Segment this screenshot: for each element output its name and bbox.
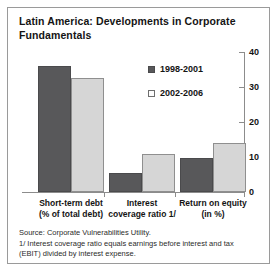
category-label-line: Return on equity <box>163 198 263 209</box>
x-axis-tick <box>104 193 105 197</box>
footnote-source: Source: Corporate Vulnerabilities Utilit… <box>19 228 257 239</box>
y-axis-tick-label: 10 <box>249 153 259 162</box>
bar <box>180 158 213 192</box>
y-axis-tick-label: 40 <box>249 48 259 57</box>
chart-figure: Latin America: Developments in Corporate… <box>0 0 277 271</box>
x-axis-tick <box>244 193 245 197</box>
x-axis-tick <box>175 193 176 197</box>
bar <box>38 66 71 192</box>
y-axis-tick <box>239 122 245 123</box>
y-axis-tick-label: 0 <box>249 188 254 197</box>
category-label: Return on equity(in %) <box>163 198 263 220</box>
legend-label: 2002-2006 <box>160 89 203 98</box>
legend-swatch-icon <box>148 90 155 97</box>
bar <box>213 143 246 192</box>
chart-legend: 1998-2001 2002-2006 <box>148 64 203 112</box>
bar <box>109 173 142 192</box>
legend-swatch-icon <box>148 66 155 73</box>
chart-footnote: Source: Corporate Vulnerabilities Utilit… <box>19 228 257 260</box>
y-axis-tick <box>239 87 245 88</box>
footnote-note-line-1: 1/ Interest coverage ratio equals earnin… <box>19 239 257 250</box>
legend-item-1998-2001: 1998-2001 <box>148 64 203 74</box>
category-label-line: (in %) <box>163 209 263 220</box>
x-axis-line <box>22 192 244 193</box>
y-axis-tick <box>239 52 245 53</box>
legend-label: 1998-2001 <box>160 65 203 74</box>
bar <box>142 154 175 193</box>
footnote-note-line-2: (EBIT) divided by interest expense. <box>19 249 257 260</box>
bar <box>71 78 104 192</box>
y-axis-tick-label: 20 <box>249 118 259 127</box>
legend-item-2002-2006: 2002-2006 <box>148 88 203 98</box>
y-axis-tick-label: 30 <box>249 83 259 92</box>
